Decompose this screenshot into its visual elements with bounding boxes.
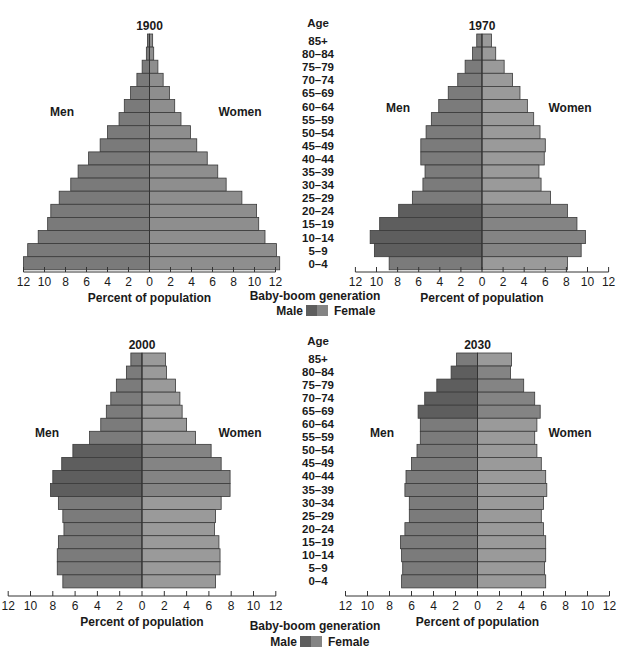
x-tick-label: 10 [247, 599, 261, 613]
bar-women-20-24 [142, 523, 214, 536]
x-tick-label: 6 [415, 275, 422, 289]
bar-men-40-44 [406, 470, 478, 483]
bar-men-0-4 [63, 575, 142, 588]
bar-men-30-34 [423, 178, 482, 191]
age-header-top: Age [307, 17, 329, 29]
bar-women-45-49 [478, 457, 542, 470]
age-label: 25–29 [302, 192, 334, 204]
x-tick-label: 6 [206, 599, 213, 613]
age-label: 80–84 [302, 366, 335, 378]
legend-female-label-top: Female [334, 304, 376, 318]
x-tick-label: 8 [230, 275, 237, 289]
bar-women-0-4 [478, 575, 546, 588]
bar-women-70-74 [482, 73, 513, 86]
bar-men-75-79 [142, 60, 149, 73]
bar-men-35-39 [405, 484, 478, 497]
x-tick-label: 4 [518, 599, 525, 613]
bar-men-50-54 [426, 126, 482, 139]
bar-women-85+ [482, 34, 491, 47]
x-tick-label: 12 [349, 275, 363, 289]
bar-men-45-49 [100, 139, 149, 152]
panel-title: 2030 [464, 338, 491, 352]
x-tick-label: 2 [161, 599, 168, 613]
bar-women-85+ [478, 353, 512, 366]
bar-women-15-19 [150, 217, 259, 230]
age-label: 45–49 [302, 140, 334, 152]
men-label: Men [35, 426, 59, 440]
x-tick-label: 10 [38, 275, 52, 289]
legend-title-bottom: Baby-boom generation [250, 619, 381, 633]
bar-men-70-74 [425, 392, 478, 405]
x-tick-label: 8 [62, 275, 69, 289]
bar-men-70-74 [137, 73, 150, 86]
bar-men-55-59 [420, 431, 477, 444]
x-axis-label: Percent of population [88, 291, 211, 305]
x-tick-label: 12 [269, 599, 283, 613]
bar-women-35-39 [150, 165, 218, 178]
bar-women-45-49 [142, 457, 221, 470]
bar-women-20-24 [150, 204, 257, 217]
bar-women-40-44 [478, 470, 546, 483]
age-label: 80–84 [302, 48, 335, 60]
x-axis-label: Percent of population [80, 615, 203, 629]
bar-men-50-54 [108, 126, 150, 139]
x-axis-label: Percent of population [416, 615, 539, 629]
bar-men-80-84 [473, 47, 482, 60]
bar-men-85+ [131, 353, 142, 366]
bar-women-80-84 [482, 47, 496, 60]
legend-female-swatch-bottom [311, 636, 322, 647]
bar-men-70-74 [458, 73, 482, 86]
x-tick-label: 2 [116, 599, 123, 613]
bar-men-40-44 [421, 152, 482, 165]
age-label: 85+ [308, 35, 328, 47]
age-label: 35–39 [302, 484, 334, 496]
bar-women-30-34 [478, 497, 544, 510]
x-axis-label: Percent of population [420, 291, 543, 305]
bar-men-0-4 [389, 257, 482, 270]
bar-men-5-9 [374, 244, 482, 257]
bar-women-60-64 [478, 418, 537, 431]
pyramid-1900: 190012108642024681012Percent of populati… [17, 19, 283, 305]
panel-title: 2000 [129, 338, 156, 352]
bar-men-45-49 [412, 457, 478, 470]
age-labels-top: Age 85+80–8475–7970–7465–6960–6455–5950–… [302, 17, 335, 270]
age-label: 55–59 [302, 114, 334, 126]
bar-women-70-74 [150, 73, 164, 86]
x-tick-label: 8 [562, 599, 569, 613]
x-tick-label: 8 [563, 275, 570, 289]
age-labels-bottom: Age 85+80–8475–7970–7465–6960–6455–5950–… [302, 335, 335, 587]
bar-women-60-64 [482, 100, 527, 113]
age-label: 35–39 [302, 166, 334, 178]
bar-men-35-39 [425, 165, 482, 178]
bar-men-85+ [477, 34, 482, 47]
x-tick-label: 4 [104, 275, 111, 289]
pyramid-2030: 203012108642024681012Percent of populati… [339, 338, 617, 629]
bar-women-5-9 [482, 244, 581, 257]
women-label: Women [548, 101, 591, 115]
x-tick-label: 2 [125, 275, 132, 289]
bar-men-25-29 [59, 191, 149, 204]
bar-women-10-14 [142, 549, 220, 562]
x-tick-label: 6 [542, 275, 549, 289]
legend-top: Baby-boom generation Male Female [250, 289, 381, 318]
bar-men-15-19 [58, 536, 142, 549]
x-tick-label: 4 [183, 599, 190, 613]
bar-men-40-44 [89, 152, 150, 165]
bar-women-45-49 [482, 139, 545, 152]
x-tick-label: 4 [430, 599, 437, 613]
bar-men-10-14 [402, 549, 478, 562]
bar-women-5-9 [142, 562, 220, 575]
x-tick-label: 10 [581, 275, 595, 289]
age-label: 65–69 [302, 87, 334, 99]
age-label: 40–44 [302, 470, 335, 482]
x-tick-label: 6 [408, 599, 415, 613]
age-label: 5–9 [308, 562, 327, 574]
bar-women-55-59 [150, 113, 182, 126]
x-tick-label: 2 [500, 275, 507, 289]
bar-men-5-9 [57, 562, 142, 575]
x-tick-label: 4 [521, 275, 528, 289]
age-label: 40–44 [302, 153, 335, 165]
bar-women-25-29 [142, 510, 216, 523]
bar-women-80-84 [478, 366, 511, 379]
bar-men-80-84 [451, 366, 477, 379]
